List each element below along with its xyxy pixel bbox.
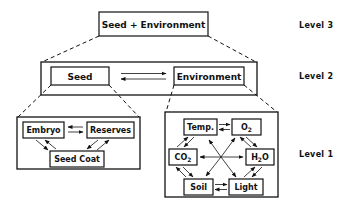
embryo-label: Embryo	[26, 126, 61, 135]
level3-label: Level 3	[299, 21, 333, 30]
environment-label: Environment	[177, 72, 242, 82]
expansion-line-right	[208, 36, 256, 62]
level2-label: Level 2	[299, 72, 333, 81]
seed-environment-diagram: Seed + Environment Seed Environment Embr…	[0, 0, 349, 206]
soil-label: Soil	[190, 183, 207, 192]
seed-label: Seed	[67, 72, 92, 82]
level1-environment-group: Temp. O2 CO2 H2O Soil Light	[165, 112, 278, 197]
level2-group: Seed Environment	[41, 62, 257, 95]
level3-group: Seed + Environment	[99, 12, 208, 36]
temp-label: Temp.	[187, 123, 214, 132]
light-label: Light	[234, 183, 257, 192]
reserves-label: Reserves	[90, 126, 131, 135]
level1-seed-group: Embryo Reserves Seed Coat	[17, 117, 140, 169]
seed-environment-label: Seed + Environment	[102, 20, 206, 30]
expansion-line-left	[42, 36, 99, 62]
seed-coat-label: Seed Coat	[54, 155, 100, 164]
level1-label: Level 1	[299, 150, 333, 159]
